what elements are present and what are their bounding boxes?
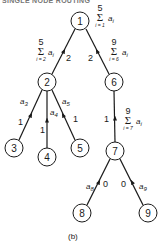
node-3-label: 3: [11, 143, 17, 154]
sum-edge-7-6: 9 Σ i = 7 ai: [123, 106, 142, 131]
node-6-label: 6: [111, 77, 117, 88]
routing-tree-diagram: SINGLE NODE ROUTING: [0, 0, 159, 245]
svg-text:ai: ai: [136, 117, 142, 127]
figure-caption: (b): [68, 232, 78, 241]
node-4-label: 4: [44, 152, 50, 163]
weight-2-1: 2: [66, 53, 71, 63]
svg-text:i = 7: i = 7: [123, 125, 133, 131]
node-7-label: 7: [112, 146, 118, 157]
flow-a5: a5: [62, 97, 70, 107]
sum-node-1: 5 Σ i = 1 ai: [95, 3, 114, 28]
sum-edge-6-1: 9 Σ i = 6 ai: [109, 37, 128, 62]
weight-3-2: 1: [18, 117, 23, 127]
node-8-label: 8: [79, 208, 85, 219]
flow-a4: a4: [50, 108, 58, 118]
tree-graph: 1 2 3 4 5 6 7 8 9 2 2 1 1 1 1 0 0 a3: [0, 0, 159, 245]
svg-text:i = 6: i = 6: [109, 56, 119, 62]
weight-5-2: 1: [73, 114, 78, 124]
weight-9-7: 0: [121, 179, 126, 189]
sum-edge-2-1: 5 Σ i = 2 ai: [36, 37, 54, 62]
flow-a8: a8: [86, 182, 94, 192]
node-2-label: 2: [44, 77, 50, 88]
weight-4-2: 1: [40, 125, 45, 135]
flow-a9: a9: [139, 182, 147, 192]
svg-text:i = 1: i = 1: [95, 22, 105, 28]
edge-7-6: [114, 91, 115, 142]
node-9-label: 9: [145, 208, 151, 219]
weight-8-7: 0: [103, 179, 108, 189]
svg-text:ai: ai: [122, 48, 128, 58]
svg-text:ai: ai: [48, 48, 54, 58]
svg-text:i = 2: i = 2: [36, 56, 46, 62]
weight-7-6: 1: [104, 114, 109, 124]
svg-text:ai: ai: [108, 14, 114, 24]
flow-a3: a3: [20, 97, 28, 107]
weight-6-1: 2: [88, 53, 93, 63]
node-1-label: 1: [77, 16, 83, 27]
node-5-label: 5: [77, 143, 83, 154]
